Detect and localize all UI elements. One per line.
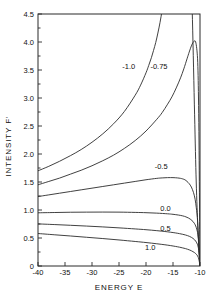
x-tick-label: -25 [114,268,125,277]
y-tick-label: 4.5 [24,10,34,19]
y-tick-label: 0.5 [24,234,34,243]
y-axis-ticks: 00.51.01.52.02.53.03.54.04.5 [24,10,42,271]
y-tick-label: 2.5 [24,122,34,131]
y-tick-label: 1.5 [24,178,34,187]
curve-group [38,0,200,266]
y-tick-label: 3.5 [24,66,34,75]
x-tick-label: -35 [60,268,71,277]
figure-container: -40-35-30-25-20-15-10 00.51.01.52.02.53.… [0,0,217,299]
curve-0.5 [38,224,200,266]
curve--1.0 [38,0,200,266]
y-axis-title: INTENSITY F' [4,115,13,176]
curve-1.0 [38,234,200,266]
curve-label--1.0: -1.0 [122,62,135,71]
y-tick-label: 4.0 [24,38,34,47]
x-tick-label: -20 [141,268,152,277]
x-tick-label: -10 [195,268,206,277]
y-tick-label: 2.0 [24,150,34,159]
curve-labels: -1.0-0.75-0.50.00.51.0 [122,62,170,252]
curve-label--0.5: -0.5 [155,162,168,171]
chart-plot-area: -40-35-30-25-20-15-10 00.51.01.52.02.53.… [0,0,217,299]
y-tick-label: 0 [30,262,34,271]
x-axis-ticks: -40-35-30-25-20-15-10 [33,262,206,277]
curve-label-1.0: 1.0 [145,243,155,252]
x-tick-label: -30 [87,268,98,277]
curve-label-0.0: 0.0 [160,204,170,213]
curve--0.5 [38,178,200,266]
curve-label--0.75: -0.75 [150,62,167,71]
y-tick-label: 3.0 [24,94,34,103]
x-tick-label: -15 [168,268,179,277]
curve-label-0.5: 0.5 [160,224,170,233]
x-axis-title: ENERGY E [95,283,143,292]
curve--0.75 [38,41,200,266]
curve-0.0 [38,212,200,266]
x-tick-label: -40 [33,268,44,277]
y-tick-label: 1.0 [24,206,34,215]
